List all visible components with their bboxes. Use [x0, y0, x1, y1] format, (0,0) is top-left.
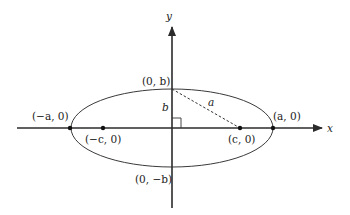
ellipse-diagram: y x (0, b) (0, −b) (−a, 0) (a, 0) (−c, 0… [0, 0, 350, 215]
vertex-left-point [68, 126, 72, 130]
focus-left-label: (−c, 0) [85, 133, 121, 145]
vertex-right-label: (a, 0) [273, 110, 301, 122]
focus-right-label: (c, 0) [228, 133, 255, 145]
focus-left-point [101, 126, 105, 130]
focus-right-point [238, 126, 242, 130]
covertex-bottom-label: (0, −b) [135, 173, 172, 185]
segment-b-label: b [162, 101, 169, 113]
y-axis-label: y [165, 10, 173, 22]
vertex-right-point [271, 126, 275, 130]
x-axis-label: x [327, 122, 333, 134]
covertex-top-label: (0, b) [142, 75, 170, 87]
segment-a-label: a [208, 96, 214, 108]
vertex-left-label: (−a, 0) [32, 110, 69, 122]
segment-a-dashed [172, 89, 240, 128]
right-angle-marker [172, 118, 181, 128]
